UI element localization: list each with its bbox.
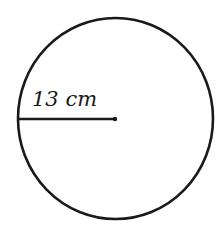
- center-point: [113, 117, 117, 121]
- circle-diagram: 13 cm: [0, 0, 224, 231]
- radius-label: 13 cm: [32, 87, 97, 111]
